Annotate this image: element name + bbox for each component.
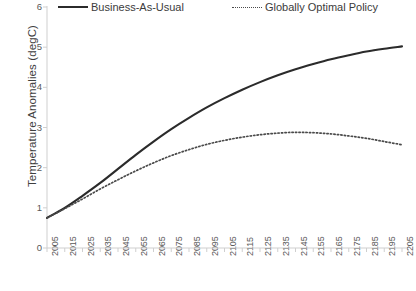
axis-lines <box>47 6 407 248</box>
temperature-anomalies-chart: Business-As-Usual Globally Optimal Polic… <box>0 0 416 291</box>
series-line-business-as-usual <box>47 46 402 218</box>
y-axis-ticks <box>43 7 47 248</box>
series-line-globally-optimal-policy <box>47 132 402 218</box>
x-axis-ticks <box>47 248 402 252</box>
plot-area <box>0 0 416 291</box>
